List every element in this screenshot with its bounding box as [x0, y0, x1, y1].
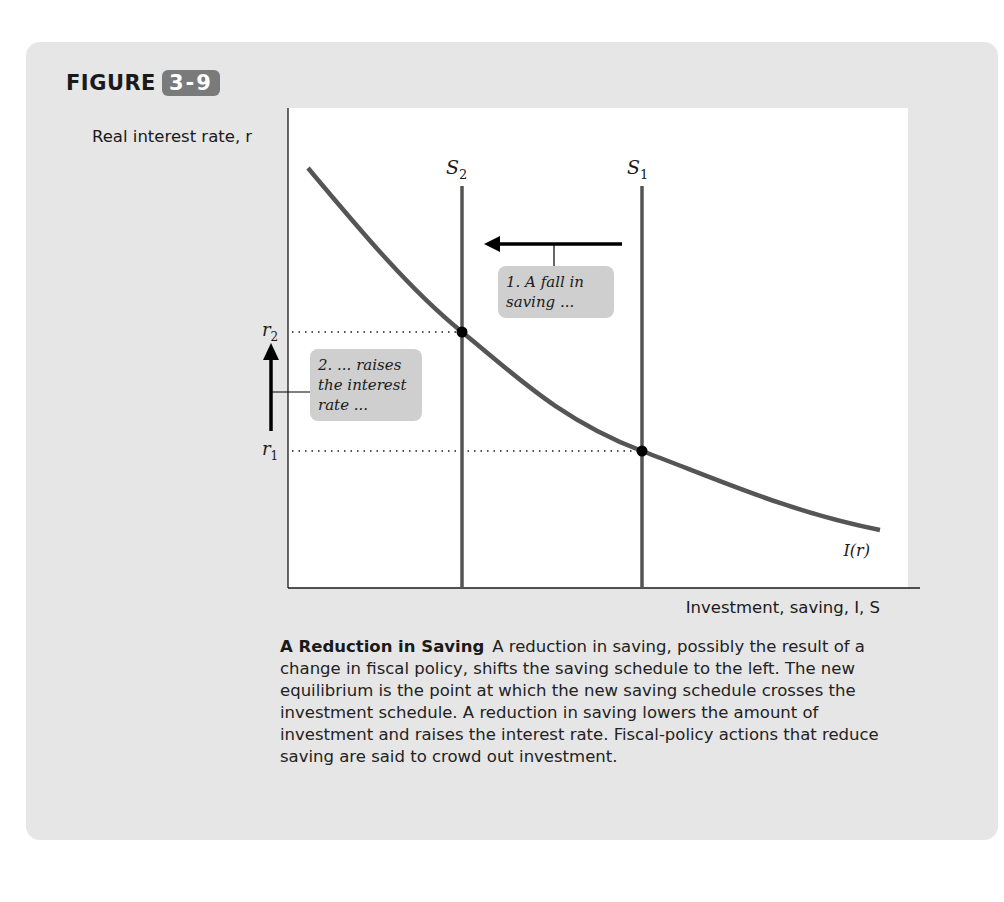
caption-title: A Reduction in Saving — [280, 637, 484, 656]
figure-caption: A Reduction in SavingA reduction in savi… — [280, 636, 900, 768]
annotation-line: 1. A fall in — [506, 272, 606, 292]
initial-equilibrium-point — [637, 446, 648, 457]
annotation-line: saving ... — [506, 292, 606, 312]
chart: Real interest rate, r Investment, saving… — [0, 0, 1004, 640]
r1-tick-label: r1 — [262, 438, 278, 463]
y-axis-label: Real interest rate, r — [92, 127, 252, 146]
new-equilibrium-point — [457, 327, 468, 338]
annotation-fall-in-saving: 1. A fall in saving ... — [498, 266, 614, 318]
investment-curve-label: I(r) — [843, 541, 870, 560]
caption-body: A reduction in saving, possibly the resu… — [280, 637, 879, 766]
annotation-line: rate ... — [318, 395, 414, 415]
x-axis-label: Investment, saving, I, S — [686, 598, 880, 617]
annotation-line: 2. ... raises — [318, 355, 414, 375]
r2-tick-label: r2 — [262, 319, 278, 344]
rise-arrow-head-icon — [263, 343, 279, 360]
annotation-raises-rate: 2. ... raises the interest rate ... — [310, 349, 422, 421]
annotation-line: the interest — [318, 375, 414, 395]
